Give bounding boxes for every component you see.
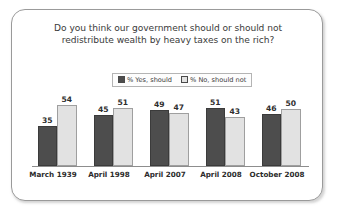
x-axis-label: April 2008 (190, 170, 252, 179)
bar-value-label: 51 (117, 98, 128, 107)
x-axis-label: April 2007 (134, 170, 196, 179)
bar-group: 45 51 (89, 98, 137, 166)
bar-value-label: 46 (266, 104, 277, 113)
bar-group: 46 50 (257, 98, 305, 166)
bar-no: 54 (57, 105, 77, 166)
bar-yes: 51 (206, 108, 226, 166)
x-axis-label: October 2008 (246, 170, 308, 179)
legend-label-yes: % Yes, should (127, 76, 172, 84)
bar-value-label: 43 (229, 107, 240, 116)
legend-label-no: % No, should not (190, 76, 246, 84)
bar-no: 51 (113, 108, 133, 166)
bar-value-label: 54 (61, 95, 72, 104)
bar-yes: 45 (94, 115, 114, 166)
bar-group: 49 47 (145, 98, 193, 166)
legend-item-no: % No, should not (181, 76, 246, 84)
chart-legend: % Yes, should % No, should not (112, 73, 252, 87)
chart-title-line-2: redistribute wealth by heavy taxes on th… (28, 34, 308, 46)
bar-yes: 49 (150, 110, 170, 166)
bar-value-label: 47 (173, 103, 184, 112)
chart-plot-area: 35 54 45 51 49 (33, 98, 306, 166)
legend-swatch-no-icon (181, 76, 188, 83)
bar-yes: 46 (262, 114, 282, 166)
chart-card: Do you think our government should or sh… (11, 9, 323, 201)
bar-value-label: 49 (154, 100, 165, 109)
bar-value-label: 35 (42, 116, 53, 125)
bar-group: 51 43 (201, 98, 249, 166)
legend-swatch-yes-icon (118, 76, 125, 83)
bar-no: 47 (169, 113, 189, 166)
chart-title: Do you think our government should or sh… (28, 22, 308, 47)
x-axis-label: April 1998 (78, 170, 140, 179)
bar-value-label: 45 (98, 105, 109, 114)
bar-group: 35 54 (33, 98, 81, 166)
bar-value-label: 51 (210, 98, 221, 107)
bar-value-label: 50 (285, 99, 296, 108)
bar-yes: 35 (38, 126, 58, 166)
chart-title-line-1: Do you think our government should or sh… (28, 22, 308, 34)
bar-no: 50 (281, 109, 301, 166)
bar-no: 43 (225, 117, 245, 166)
legend-item-yes: % Yes, should (118, 76, 172, 84)
x-axis-label: March 1939 (22, 170, 84, 179)
